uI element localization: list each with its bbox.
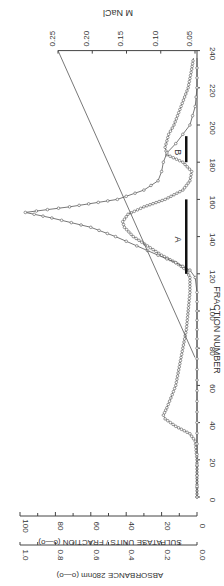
data-point bbox=[177, 111, 180, 114]
data-point bbox=[42, 215, 45, 218]
data-point bbox=[185, 325, 188, 328]
nacl-tick-label: 0.25 bbox=[48, 30, 57, 46]
data-point bbox=[143, 206, 146, 209]
data-point bbox=[187, 310, 190, 313]
data-point bbox=[165, 143, 168, 146]
data-point bbox=[174, 261, 177, 264]
data-point bbox=[78, 204, 81, 207]
data-point bbox=[192, 60, 195, 63]
data-point bbox=[188, 297, 191, 300]
data-point bbox=[174, 121, 177, 124]
data-point bbox=[196, 389, 199, 392]
data-point bbox=[196, 411, 199, 414]
data-point bbox=[172, 390, 175, 393]
series-line-1 bbox=[25, 58, 197, 497]
data-point bbox=[189, 279, 192, 282]
data-point bbox=[189, 432, 192, 435]
absorbance-tick-label: 0.2 bbox=[163, 549, 172, 561]
data-point bbox=[146, 245, 149, 248]
data-point bbox=[188, 294, 191, 297]
absorbance-tick-label: 1.0 bbox=[21, 549, 30, 561]
labels: 020406080100120140160180200220240FRACTIO… bbox=[21, 8, 222, 580]
sulfatase-tick-label: 40 bbox=[127, 522, 136, 531]
nacl-tick-label: 0.20 bbox=[82, 30, 91, 46]
data-point bbox=[68, 206, 71, 209]
data-point bbox=[186, 319, 189, 322]
data-point bbox=[182, 133, 185, 136]
data-point bbox=[187, 304, 190, 307]
fraction-tick-label: 180 bbox=[208, 159, 217, 173]
fraction-pool-bar-B bbox=[185, 136, 188, 162]
data-point bbox=[196, 338, 199, 341]
data-point bbox=[164, 198, 167, 201]
data-point bbox=[114, 235, 117, 238]
fraction-pool-label-A: A bbox=[173, 237, 183, 243]
data-point bbox=[158, 200, 161, 203]
data-point bbox=[180, 105, 183, 108]
sulfatase-tick-label: 80 bbox=[56, 522, 65, 531]
data-point bbox=[177, 427, 180, 430]
data-point bbox=[196, 328, 199, 331]
absorbance-axis-title: ABSORBANCE 280nm (o—o) bbox=[56, 571, 163, 580]
data-point bbox=[166, 152, 169, 155]
data-point bbox=[187, 313, 190, 316]
data-point bbox=[180, 428, 183, 431]
nacl-tick-label: 0.10 bbox=[151, 30, 160, 46]
data-point bbox=[182, 265, 185, 268]
data-point bbox=[171, 393, 174, 396]
fraction-tick-label: 240 bbox=[208, 47, 217, 61]
data-point bbox=[174, 142, 177, 145]
data-point bbox=[150, 184, 153, 187]
data-point bbox=[196, 291, 199, 294]
data-point bbox=[46, 208, 49, 211]
data-point bbox=[194, 105, 197, 108]
data-point bbox=[169, 421, 172, 424]
data-point bbox=[80, 224, 83, 227]
fraction-tick-label: 40 bbox=[208, 421, 217, 430]
data-point bbox=[166, 419, 169, 422]
data-point bbox=[173, 193, 176, 196]
data-point bbox=[136, 245, 139, 248]
data-point bbox=[182, 344, 185, 347]
fraction-tick-label: 120 bbox=[208, 270, 217, 284]
data-point bbox=[189, 77, 192, 80]
data-point bbox=[123, 218, 126, 221]
data-point bbox=[33, 213, 36, 216]
data-point bbox=[172, 423, 175, 426]
fraction-tick-label: 60 bbox=[208, 384, 217, 393]
data-point bbox=[169, 130, 172, 133]
data-point bbox=[196, 319, 199, 322]
data-point bbox=[196, 443, 199, 446]
data-point bbox=[189, 176, 192, 179]
data-point bbox=[164, 146, 167, 149]
data-point bbox=[162, 161, 165, 164]
data-point bbox=[196, 300, 199, 303]
data-point bbox=[161, 199, 164, 202]
absorbance-tick-label: 0.6 bbox=[92, 549, 101, 561]
data-point bbox=[139, 207, 142, 210]
data-point bbox=[183, 341, 186, 344]
data-point bbox=[138, 239, 141, 242]
data-point bbox=[167, 197, 170, 200]
data-point bbox=[60, 219, 63, 222]
fraction-tick-label: 160 bbox=[208, 196, 217, 210]
data-point bbox=[90, 226, 93, 229]
data-point bbox=[166, 406, 169, 409]
sulfatase-tick-label: 100 bbox=[21, 519, 30, 533]
data-point bbox=[196, 67, 199, 70]
data-point bbox=[196, 368, 199, 371]
fraction-pool-bar-A bbox=[185, 199, 188, 273]
data-point bbox=[188, 80, 191, 83]
data-point bbox=[166, 136, 169, 139]
data-point bbox=[170, 195, 173, 198]
absorbance-tick-label: 0.0 bbox=[198, 549, 207, 561]
data-point bbox=[188, 168, 191, 171]
data-point bbox=[167, 133, 170, 136]
data-point bbox=[182, 161, 185, 164]
fraction-tick-label: 140 bbox=[208, 233, 217, 247]
data-point bbox=[168, 400, 171, 403]
data-point bbox=[192, 437, 195, 440]
data-point bbox=[196, 432, 199, 435]
sulfatase-tick-label: 20 bbox=[163, 522, 172, 531]
data-point bbox=[186, 322, 189, 325]
